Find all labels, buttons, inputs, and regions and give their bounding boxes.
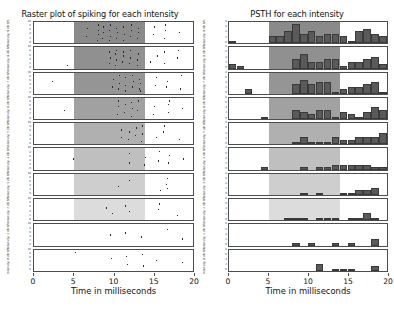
psth-column: PSTH for each intensity Intensity: 9 dB … [200,0,394,316]
psth-bar [348,62,355,69]
spike-mark [123,26,124,27]
psth-bar [308,142,315,144]
psth-bar [348,140,355,145]
y-tick-label: 0 [225,92,227,95]
spike-mark [118,88,119,89]
raster-plot-area [33,173,194,196]
spike-mark [164,51,165,52]
spike-mark [133,81,134,82]
spike-mark [110,57,111,58]
psth-panel: Intensity: 3 dB SPL86420 [200,172,394,197]
psth-bar [261,117,268,119]
y-tick-label: 6 [29,130,31,133]
spike-mark [98,30,99,31]
spike-mark [166,86,167,87]
psth-panel: Intensity: 1 dB SPL86420 [200,222,394,247]
y-tick-label: 6 [225,77,227,80]
y-tick-label: 2 [225,37,227,40]
spike-mark [143,265,144,266]
psth-bar [316,167,323,169]
raster-y-axis-label: Intensity: 0 dB SPL [4,248,22,273]
psth-plot-area [228,147,388,170]
spike-mark [142,125,143,126]
psth-bar [363,84,370,93]
y-tick-label: 4 [225,183,227,186]
spike-mark [97,40,98,41]
psth-bar [332,137,339,144]
y-tick-label: 6 [225,26,227,29]
psth-y-axis-label: Intensity: 3 dB SPL [200,172,218,197]
raster-panel: Intensity: 9 dB SPL1086420 [0,20,200,45]
psth-bar [371,57,378,69]
axis-label-text: Intensity: 7 dB SPL [203,70,206,97]
y-tick-label: 0 [225,269,227,272]
axis-label-text: Intensity: 3 dB SPL [203,171,206,198]
psth-bar [332,218,339,220]
axis-label-text: Intensity: 6 dB SPL [203,95,206,122]
spike-mark [179,32,180,33]
y-tick-label: 4 [225,107,227,110]
y-tick-label: 8 [29,76,31,79]
spike-mark [167,81,168,82]
axis-label-text: Intensity: 2 dB SPL [7,196,10,223]
psth-x-ticks: 05101520 [228,274,388,285]
x-tick-mark [388,273,389,276]
spike-mark [98,34,99,35]
y-tick-label: 6 [225,153,227,156]
spike-mark [103,32,104,33]
y-tick-label: 6 [225,178,227,181]
y-tick-label: 0 [29,67,31,70]
psth-bar [363,190,370,195]
psth-bar [308,84,315,93]
spike-mark [123,55,124,56]
psth-bar [371,82,378,94]
psth-bar [348,269,355,271]
y-tick-label: 2 [225,188,227,191]
spike-mark [138,100,139,101]
spike-mark [168,162,169,163]
spike-mark [131,102,132,103]
spike-mark [144,164,145,165]
y-tick-label: 6 [225,229,227,232]
spike-mark [127,264,128,265]
spike-mark [129,180,130,181]
stimulus-shading [74,199,146,220]
psth-bar [292,218,299,220]
psth-bar [379,64,386,69]
spike-mark [140,83,141,84]
spike-mark [122,61,123,62]
psth-bar [371,167,378,169]
psth-plot-area [228,72,388,95]
psth-bar [363,165,370,170]
y-tick-labels: 86420 [218,248,227,273]
y-tick-labels: 86420 [218,20,227,45]
psth-plot-area [228,97,388,120]
x-tick-mark [154,273,155,276]
psth-bar [229,64,236,69]
raster-panel: Intensity: 8 dB SPL1086420 [0,45,200,70]
psth-bar [284,218,291,220]
spike-mark [116,28,117,29]
x-tick-label: 10 [303,277,313,286]
y-tick-label: 6 [225,254,227,257]
psth-bar [363,59,370,68]
y-tick-label: 6 [225,203,227,206]
raster-y-axis-label: Intensity: 5 dB SPL [4,121,22,146]
psth-bar [340,140,347,145]
spike-mark [67,65,68,66]
psth-bar [276,36,283,43]
y-tick-label: 0 [29,118,31,121]
spike-mark [165,30,166,31]
spike-mark [103,26,104,27]
psth-bar [379,167,386,169]
x-tick-mark [308,273,309,276]
y-tick-label: 10 [28,173,31,176]
spike-mark [124,34,125,35]
y-tick-labels: 1086420 [22,45,31,70]
raster-plot-area [33,72,194,95]
y-tick-labels: 86420 [218,96,227,121]
spike-mark [166,184,167,185]
y-tick-label: 4 [225,234,227,237]
psth-title: PSTH for each intensity [200,9,394,19]
y-tick-label: 8 [29,50,31,53]
